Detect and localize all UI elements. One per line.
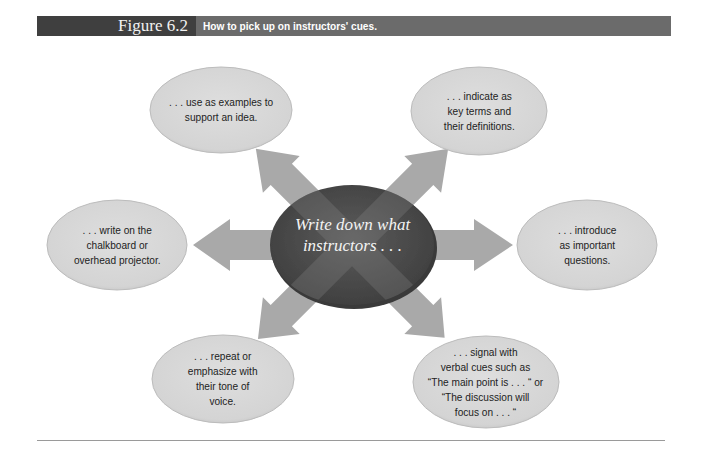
bubble-text-bottom-left: . . . repeat or emphasize with their ton…: [152, 335, 294, 423]
bottom-rule: [37, 440, 665, 441]
bubble-text-top-right: . . . indicate as key terms and their de…: [411, 67, 547, 155]
bubble-text-top-left: . . . use as examples to support an idea…: [150, 67, 292, 153]
bubble-text-left: . . . write on the chalkboard or overhea…: [47, 200, 187, 290]
center-label: Write down what instructors . . .: [270, 210, 435, 260]
bubble-text-right: . . . introduce as important questions.: [517, 200, 657, 290]
bubble-text-bottom-right: . . . signal with verbal cues such as “T…: [413, 336, 559, 428]
